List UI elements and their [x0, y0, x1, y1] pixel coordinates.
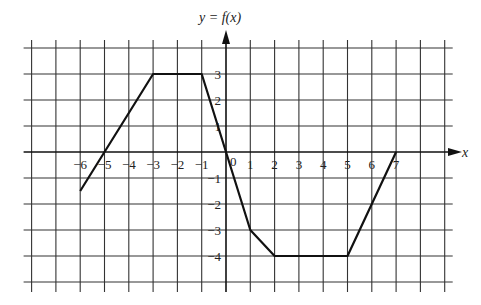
y-tick-label: −4	[207, 249, 221, 264]
y-tick-label: −1	[207, 171, 221, 186]
y-tick-label: 2	[215, 93, 222, 108]
x-tick-label: −3	[146, 157, 160, 172]
grid	[24, 40, 453, 292]
x-tick-label: 2	[271, 157, 278, 172]
y-tick-label: −2	[207, 197, 221, 212]
x-tick-label: 1	[247, 157, 254, 172]
graph-of-f: −6−5−4−3−2−11234567321−1−2−3−4 y = f(x) …	[0, 0, 481, 305]
x-axis-arrow-icon	[448, 148, 462, 156]
x-axis-label: x	[461, 145, 469, 160]
x-tick-label: −4	[122, 157, 136, 172]
x-tick-label: 5	[344, 157, 351, 172]
y-axis-arrow-icon	[222, 30, 230, 44]
x-tick-label: 4	[320, 157, 327, 172]
y-tick-label: −3	[207, 223, 221, 238]
x-tick-label: −2	[170, 157, 184, 172]
x-tick-label: 3	[296, 157, 303, 172]
x-tick-label: 6	[369, 157, 376, 172]
y-tick-label: 3	[215, 67, 222, 82]
x-tick-label: −1	[195, 157, 209, 172]
tick-labels: −6−5−4−3−2−11234567321−1−2−3−4	[73, 67, 400, 264]
y-axis-label: y = f(x)	[197, 10, 241, 26]
x-tick-label: −6	[73, 157, 87, 172]
origin-label: 0	[230, 154, 237, 169]
